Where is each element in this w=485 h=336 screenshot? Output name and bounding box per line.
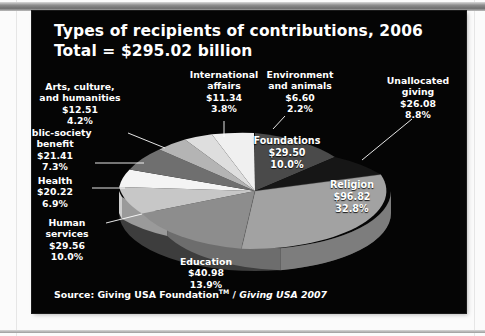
- label-arts-line1: Arts, culture,: [45, 81, 114, 92]
- label-foundations: Foundations $29.50 10.0%: [237, 135, 337, 170]
- label-unallocated-line2: giving: [372, 86, 464, 97]
- label-international-percent: 3.8%: [174, 103, 274, 114]
- label-religion: Religion $96.82 32.8%: [304, 179, 400, 214]
- label-health-amount: $20.22: [32, 186, 94, 197]
- label-environment-line1: Environment: [267, 69, 334, 80]
- label-health-name: Health: [38, 175, 73, 186]
- source-note: Source: Giving USA FoundationTM / Giving…: [54, 288, 327, 300]
- label-health-percent: 6.9%: [32, 198, 94, 209]
- label-arts-line2: and humanities: [32, 92, 132, 103]
- label-public-society-line2: benefit: [32, 138, 98, 149]
- label-international-amount: $11.34: [174, 92, 274, 103]
- label-public-society-line1: Public-society: [32, 127, 92, 138]
- chart-panel: Types of recipients of contributions, 20…: [32, 11, 466, 313]
- label-unallocated-amount: $26.08: [372, 98, 464, 109]
- label-education-name: Education: [180, 256, 232, 267]
- source-publication: Giving USA 2007: [239, 289, 327, 300]
- label-arts-amount: $12.51: [32, 104, 132, 115]
- label-unallocated-percent: 8.8%: [372, 109, 464, 120]
- label-health: Health $20.22 6.9%: [32, 175, 94, 209]
- label-education-amount: $40.98: [160, 267, 252, 278]
- screenshot-root: Types of recipients of contributions, 20…: [0, 0, 485, 336]
- leader-line-environment: [273, 116, 285, 129]
- label-international-line2: affairs: [174, 80, 274, 91]
- label-international-affairs: International affairs $11.34 3.8%: [174, 69, 274, 115]
- leader-line-unallocated: [362, 119, 412, 160]
- label-human-amount: $29.56: [32, 240, 108, 251]
- source-prefix: Source: Giving USA Foundation: [54, 289, 219, 300]
- label-public-society-benefit: Public-society benefit $21.41 7.3%: [32, 127, 98, 173]
- source-separator: /: [229, 289, 239, 300]
- label-religion-name: Religion: [330, 179, 374, 190]
- label-foundations-percent: 10.0%: [237, 159, 337, 171]
- bottom-decorative-rule: [0, 330, 485, 333]
- page-seam-left: [16, 0, 17, 336]
- label-foundations-name: Foundations: [254, 135, 321, 146]
- label-human-services: Human services $29.56 10.0%: [32, 217, 108, 263]
- label-arts-culture-humanities: Arts, culture, and humanities $12.51 4.2…: [32, 81, 132, 127]
- page-seam-right: [474, 0, 475, 336]
- label-religion-percent: 32.8%: [304, 203, 400, 215]
- label-public-society-amount: $21.41: [32, 150, 98, 161]
- label-unallocated-line1: Unallocated: [387, 75, 449, 86]
- leader-line-arts: [128, 133, 165, 148]
- label-public-society-percent: 7.3%: [32, 161, 98, 172]
- label-arts-percent: 4.2%: [32, 115, 132, 126]
- top-decorative-bar: [0, 2, 485, 11]
- label-human-line2: services: [32, 228, 108, 239]
- source-trademark: TM: [219, 288, 229, 295]
- label-foundations-amount: $29.50: [237, 147, 337, 159]
- label-education: Education $40.98 13.9%: [160, 256, 252, 290]
- label-human-percent: 10.0%: [32, 251, 108, 262]
- label-unallocated-giving: Unallocated giving $26.08 8.8%: [372, 75, 464, 121]
- label-human-line1: Human: [49, 217, 86, 228]
- label-international-line1: International: [190, 69, 258, 80]
- label-religion-amount: $96.82: [304, 191, 400, 203]
